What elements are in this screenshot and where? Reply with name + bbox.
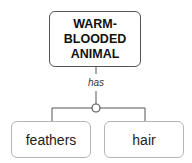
child-label: feathers — [26, 132, 77, 148]
root-label-line-1: WARM- — [64, 17, 127, 32]
child-node-hair[interactable]: hair — [104, 121, 184, 158]
child-label: hair — [132, 132, 155, 148]
relation-label: has — [80, 77, 112, 88]
root-label-line-3: ANIMAL — [64, 47, 127, 62]
root-concept-node[interactable]: WARM- BLOODED ANIMAL — [49, 11, 141, 67]
junction-circle — [92, 104, 100, 112]
root-label-line-2: BLOODED — [64, 32, 127, 47]
child-node-feathers[interactable]: feathers — [11, 121, 91, 158]
